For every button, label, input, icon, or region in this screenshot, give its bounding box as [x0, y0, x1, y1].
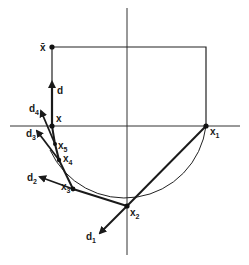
point-x [49, 123, 54, 128]
label-d2: d2 [27, 172, 37, 185]
feasible-box [52, 47, 206, 126]
label-x4: x4 [63, 153, 73, 166]
diagram-canvas: x̄ d x d4 d3 x5 x4 d2 x3 x2 x1 d1 [0, 0, 249, 265]
segment-x1-x2 [127, 126, 206, 206]
label-x5: x5 [58, 140, 68, 153]
label-xbar: x̄ [40, 42, 46, 53]
label-x2: x2 [130, 207, 140, 220]
label-d3: d3 [26, 128, 36, 141]
point-x3 [71, 187, 76, 192]
direction-d1-arrow [100, 206, 127, 233]
label-d: d [57, 85, 63, 96]
point-x5 [53, 142, 57, 146]
point-x1 [203, 123, 208, 128]
label-d1: d1 [86, 231, 96, 244]
point-x4 [57, 158, 61, 162]
point-x2 [124, 203, 129, 208]
label-x: x [56, 113, 62, 124]
label-d4: d4 [29, 103, 39, 116]
point-xbar [49, 44, 54, 49]
label-x1: x1 [210, 126, 220, 139]
